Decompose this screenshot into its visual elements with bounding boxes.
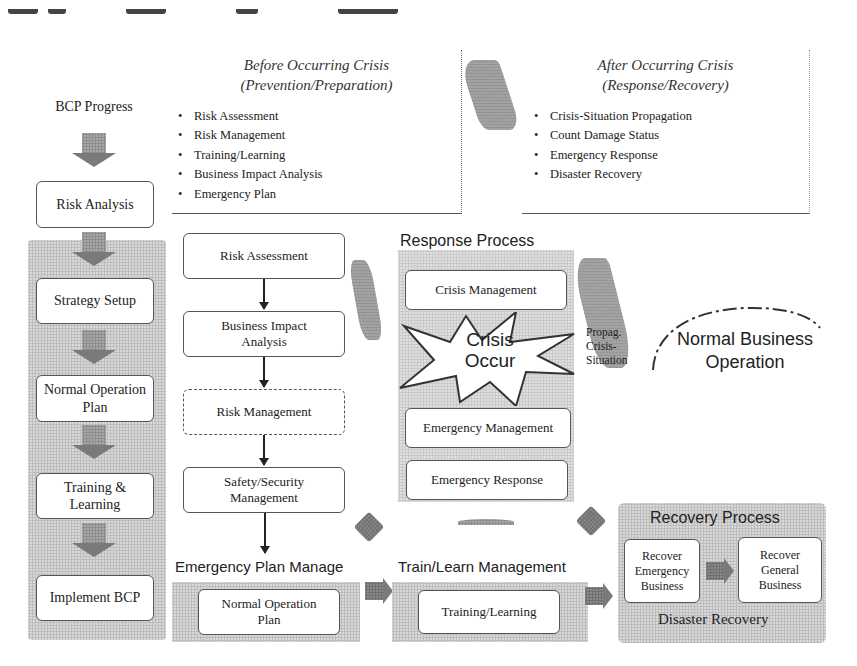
list-item: Emergency Plan	[194, 185, 461, 204]
after-crisis-title-line2: (Response/Recovery)	[522, 76, 809, 96]
before-crisis-title: Before Occurring Crisis (Prevention/Prep…	[172, 56, 461, 95]
recover-general-business-box: Recover General Business	[738, 537, 822, 603]
train-learn-management-label: Train/Learn Management	[398, 558, 566, 575]
flow-label: Business Impact Analysis	[204, 318, 324, 351]
after-crisis-title: After Occurring Crisis (Response/Recover…	[522, 56, 809, 95]
curve-arrow-left	[353, 511, 384, 542]
flow-arrow-3	[263, 435, 265, 465]
flow-label: Risk Management	[217, 404, 312, 420]
bcp-step-label: Training & Learning	[51, 479, 139, 514]
transition-swoosh-top	[459, 60, 522, 130]
propagation-line2: Crisis-	[586, 340, 628, 354]
flow-arrow-2	[263, 357, 265, 387]
propagation-line3: Situation	[586, 354, 628, 368]
bcp-step-training-learning: Training & Learning	[36, 473, 154, 519]
list-item: Training/Learning	[194, 146, 461, 165]
list-item: Crisis-Situation Propagation	[550, 107, 809, 126]
bcp-arrow-4	[72, 425, 116, 459]
recover-emergency-business-box: Recover Emergency Business	[624, 539, 700, 603]
box-label: Training/Learning	[442, 604, 537, 620]
recovery-process-label: Recovery Process	[650, 509, 780, 527]
bcp-step-implement-bcp: Implement BCP	[36, 575, 154, 621]
crisis-occur-line2: Occur	[450, 351, 530, 372]
training-learning-box: Training/Learning	[418, 590, 560, 634]
box-label: Crisis Management	[435, 282, 536, 298]
bcp-arrow-1	[72, 133, 116, 167]
response-process-label: Response Process	[400, 232, 534, 250]
normal-operation-plan-box: Normal Operation Plan	[198, 589, 340, 635]
bcp-step-risk-analysis: Risk Analysis	[36, 181, 154, 228]
disaster-recovery-label: Disaster Recovery	[658, 611, 768, 628]
box-label: Recover General Business	[747, 548, 813, 593]
propagation-label: Propag. Crisis- Situation	[586, 326, 628, 367]
bcp-arrow-3	[72, 330, 116, 364]
arrow-recover-next	[706, 558, 736, 584]
flow-arrow-4	[264, 513, 266, 553]
normal-business-line2: Operation	[660, 351, 830, 374]
list-item: Emergency Response	[550, 146, 809, 165]
normal-business-line1: Normal Business	[660, 328, 830, 351]
box-label: Recover Emergency Business	[631, 549, 693, 594]
arrow-to-recovery	[585, 583, 615, 609]
arrow-to-train-learn	[365, 578, 395, 604]
flow-risk-assessment: Risk Assessment	[183, 233, 345, 279]
propagation-line1: Propag.	[586, 326, 628, 340]
flow-safety-security-management: Safety/Security Management	[183, 467, 345, 513]
crisis-occur-line1: Crisis	[450, 330, 530, 351]
box-label: Emergency Management	[423, 420, 553, 436]
after-crisis-panel: After Occurring Crisis (Response/Recover…	[522, 50, 810, 214]
list-item: Risk Assessment	[194, 107, 461, 126]
after-crisis-title-line1: After Occurring Crisis	[522, 56, 809, 76]
bcp-step-normal-operation-plan: Normal Operation Plan	[36, 375, 154, 422]
flow-label: Risk Assessment	[220, 248, 308, 264]
emergency-response-box: Emergency Response	[406, 460, 568, 500]
flow-business-impact-analysis: Business Impact Analysis	[183, 311, 345, 357]
crisis-management-box: Crisis Management	[405, 270, 567, 310]
emergency-plan-manage-label: Emergency Plan Manage	[175, 558, 343, 575]
bcp-step-label: Normal Operation Plan	[43, 381, 147, 416]
flow-risk-management: Risk Management	[183, 389, 345, 435]
after-crisis-list: Crisis-Situation Propagation Count Damag…	[522, 107, 809, 185]
curve-arrow-right	[575, 505, 606, 536]
transition-swoosh-middle	[348, 260, 384, 340]
before-crisis-list: Risk Assessment Risk Management Training…	[172, 107, 461, 204]
emergency-management-box: Emergency Management	[405, 408, 571, 448]
list-item: Business Impact Analysis	[194, 165, 461, 184]
before-crisis-title-line2: (Prevention/Preparation)	[172, 76, 461, 96]
box-label: Emergency Response	[431, 472, 543, 488]
crisis-occur-label: Crisis Occur	[450, 330, 530, 372]
before-crisis-title-line1: Before Occurring Crisis	[172, 56, 461, 76]
flow-arrow-1	[263, 279, 265, 309]
before-crisis-panel: Before Occurring Crisis (Prevention/Prep…	[172, 50, 462, 214]
cutoff-title	[0, 0, 857, 6]
bcp-step-strategy-setup: Strategy Setup	[36, 278, 154, 324]
bcp-progress-header: BCP Progress	[36, 84, 152, 130]
box-label: Normal Operation Plan	[219, 596, 319, 629]
bcp-step-label: Strategy Setup	[54, 292, 136, 310]
bcp-progress-label: BCP Progress	[55, 98, 133, 116]
list-item: Risk Management	[194, 126, 461, 145]
list-item: Disaster Recovery	[550, 165, 809, 184]
flow-label: Safety/Security Management	[204, 474, 324, 507]
bcp-step-label: Implement BCP	[50, 589, 141, 607]
list-item: Count Damage Status	[550, 126, 809, 145]
normal-business-operation-label: Normal Business Operation	[660, 328, 830, 375]
bcp-step-label: Risk Analysis	[56, 196, 133, 214]
curve-arc-center	[458, 519, 514, 525]
bcp-arrow-5	[72, 523, 116, 557]
bcp-arrow-2	[72, 232, 116, 266]
